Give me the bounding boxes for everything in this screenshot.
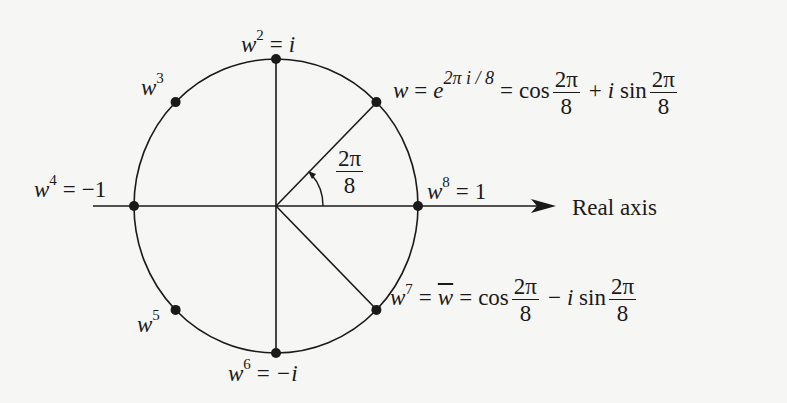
label-w1-cos-den: 8 xyxy=(553,93,580,118)
label-w2-base: w xyxy=(241,32,256,57)
label-w1: w=e2π i / 8=cos2π8+i sin2π8 xyxy=(393,68,680,118)
label-w5: w5 xyxy=(137,313,160,336)
label-w2: w2=i xyxy=(241,33,295,56)
label-w5-exp: 5 xyxy=(152,307,160,323)
label-w4-eq: = xyxy=(63,177,76,202)
angle-label: 2π 8 xyxy=(333,147,366,197)
label-w7-eq: = xyxy=(419,285,432,310)
label-w8-base: w xyxy=(427,179,442,204)
label-w1-base: w xyxy=(393,78,408,103)
label-w3: w3 xyxy=(141,76,164,99)
label-w1-sin: sin xyxy=(620,78,647,103)
label-w1-e: e xyxy=(433,78,443,103)
label-w7-op: − xyxy=(548,285,561,310)
label-w3-base: w xyxy=(141,75,156,100)
label-w6-rhs: −i xyxy=(276,361,298,386)
root-point-w3 xyxy=(171,97,181,107)
angle-label-denominator: 8 xyxy=(336,172,363,197)
root-point-w1 xyxy=(371,97,381,107)
root-point-w5 xyxy=(171,305,181,315)
label-w7-base: w xyxy=(390,285,405,310)
label-w7-exp: 7 xyxy=(405,281,413,297)
label-w1-cos-num: 2π xyxy=(553,68,580,93)
root-point-w7 xyxy=(371,305,381,315)
label-w2-eq: = xyxy=(270,32,283,57)
real-axis-label: Real axis xyxy=(572,196,657,219)
label-w4-base: w xyxy=(34,177,49,202)
label-w7-i: i xyxy=(567,285,573,310)
label-w1-cos: cos xyxy=(519,78,550,103)
label-w7-cos-num: 2π xyxy=(512,275,539,300)
label-w7-cos-den: 8 xyxy=(512,300,539,325)
label-w1-eq: = xyxy=(414,78,427,103)
label-w4-rhs: −1 xyxy=(82,177,106,202)
unit-circle-diagram xyxy=(0,0,787,403)
label-w1-i: i xyxy=(608,78,614,103)
label-w6-base: w xyxy=(228,361,243,386)
label-w6-eq: = xyxy=(257,361,270,386)
label-w5-base: w xyxy=(137,312,152,337)
label-w4-exp: 4 xyxy=(49,172,57,188)
root-point-w6 xyxy=(271,348,281,358)
label-w8: w8=1 xyxy=(427,180,486,203)
angle-arc xyxy=(311,174,323,206)
label-w7-sin: sin xyxy=(579,285,606,310)
label-w7-conjugate: w xyxy=(438,285,453,310)
root-point-w4 xyxy=(129,201,139,211)
label-w1-sin-den: 8 xyxy=(650,93,677,118)
label-w7-cos: cos xyxy=(478,285,509,310)
label-w3-exp: 3 xyxy=(156,70,164,86)
label-w8-exp: 8 xyxy=(442,174,450,190)
label-w6: w6=−i xyxy=(228,362,298,385)
angle-label-numerator: 2π xyxy=(336,147,363,172)
label-w8-eq: = xyxy=(456,179,469,204)
label-w4: w4=−1 xyxy=(34,178,106,201)
label-w1-eq2: = xyxy=(500,78,513,103)
radius-to-w7 xyxy=(276,206,377,310)
label-w6-exp: 6 xyxy=(243,356,251,372)
label-w2-exp: 2 xyxy=(256,27,264,43)
label-w1-sin-num: 2π xyxy=(650,68,677,93)
label-w2-rhs: i xyxy=(289,32,295,57)
label-w7-sin-num: 2π xyxy=(609,275,636,300)
root-point-w8 xyxy=(413,201,423,211)
label-w1-e-exp: 2π i / 8 xyxy=(444,68,495,88)
label-w7-sin-den: 8 xyxy=(609,300,636,325)
label-w7-eq2: = xyxy=(459,285,472,310)
label-w1-op: + xyxy=(589,78,602,103)
label-w7: w7=w=cos2π8−i sin2π8 xyxy=(390,275,639,325)
label-w8-rhs: 1 xyxy=(475,179,487,204)
